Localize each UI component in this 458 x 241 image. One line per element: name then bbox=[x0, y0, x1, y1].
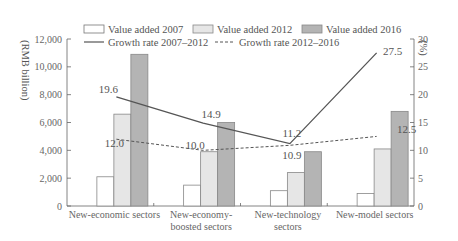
y-tick-label: 8,000 bbox=[40, 89, 63, 100]
data-label: 12.5 bbox=[397, 123, 417, 135]
bars bbox=[97, 54, 408, 206]
data-label: 12.0 bbox=[105, 137, 125, 149]
y-tick-label: 10,000 bbox=[35, 61, 63, 72]
bar-value-added-2012 bbox=[114, 114, 131, 206]
y-tick-label: 12,000 bbox=[35, 34, 63, 45]
data-label: 10.0 bbox=[186, 139, 206, 151]
legend-label-2016: Value added 2016 bbox=[326, 24, 401, 35]
line-growth-2007-2012 bbox=[116, 53, 376, 144]
category-label: New-economic sectors bbox=[69, 209, 160, 220]
y2-tick-label: 5 bbox=[418, 173, 423, 184]
bar-value-added-2012 bbox=[287, 173, 304, 206]
legend-swatch-2016 bbox=[302, 25, 322, 33]
category-label: New-technology bbox=[255, 209, 322, 220]
data-label: 10.9 bbox=[282, 149, 302, 161]
category-label: sectors bbox=[274, 221, 302, 232]
left-axis-title: (RMB billion) bbox=[19, 40, 31, 101]
category-label: boosted sectors bbox=[170, 221, 231, 232]
category-label: New-model sectors bbox=[336, 209, 414, 220]
line-growth-2012-2016 bbox=[116, 136, 376, 150]
bar-value-added-2007 bbox=[270, 191, 287, 206]
legend-label-growth-2012-2016: Growth rate 2012–2016 bbox=[239, 37, 339, 48]
y-tick-label: 6,000 bbox=[40, 117, 63, 128]
y2-tick-label: 15 bbox=[418, 117, 428, 128]
data-label: 27.5 bbox=[383, 45, 403, 57]
legend-label-2012: Value added 2012 bbox=[217, 24, 292, 35]
bar-value-added-2012 bbox=[201, 152, 218, 206]
legend-label-2007: Value added 2007 bbox=[108, 24, 183, 35]
left-axis-ticks: 02,0004,0006,0008,00010,00012,000 bbox=[35, 34, 72, 212]
category-labels: New-economic sectorsNew-economy-boosted … bbox=[69, 209, 414, 232]
data-label: 11.2 bbox=[282, 127, 301, 139]
data-label: 14.9 bbox=[202, 108, 222, 120]
y2-tick-label: 20 bbox=[418, 89, 428, 100]
bar-value-added-2007 bbox=[357, 193, 374, 206]
y-tick-label: 2,000 bbox=[40, 173, 63, 184]
bar-value-added-2012 bbox=[374, 149, 391, 206]
legend-swatch-2012 bbox=[193, 25, 213, 33]
data-label: 19.6 bbox=[99, 83, 119, 95]
y2-tick-label: 10 bbox=[418, 145, 428, 156]
combo-chart: Value added 2007 Value added 2012 Value … bbox=[0, 0, 458, 241]
y2-tick-label: 30 bbox=[418, 34, 428, 45]
y-tick-label: 4,000 bbox=[40, 145, 63, 156]
bar-value-added-2016 bbox=[131, 54, 148, 206]
bar-value-added-2007 bbox=[97, 177, 114, 206]
category-label: New-economy- bbox=[170, 209, 232, 220]
y2-tick-label: 25 bbox=[418, 61, 428, 72]
legend: Value added 2007 Value added 2012 Value … bbox=[84, 24, 401, 48]
bar-value-added-2016 bbox=[218, 123, 235, 207]
legend-label-growth-2007-2012: Growth rate 2007–2012 bbox=[108, 37, 208, 48]
y-tick-label: 0 bbox=[57, 201, 62, 212]
bar-value-added-2007 bbox=[184, 185, 201, 206]
legend-swatch-2007 bbox=[84, 25, 104, 33]
bar-value-added-2016 bbox=[304, 152, 321, 206]
y2-tick-label: 0 bbox=[418, 201, 423, 212]
